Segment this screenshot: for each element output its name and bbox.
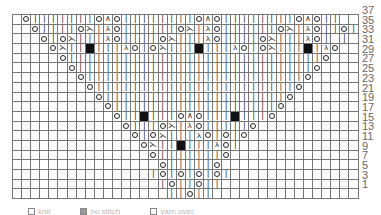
empty-cell xyxy=(13,170,22,180)
knit-cell: | xyxy=(176,131,185,141)
yarn-over-icon xyxy=(150,132,156,138)
chart-row: |||||||||||||||||||| xyxy=(13,92,359,102)
knit-cell: | xyxy=(122,24,131,34)
knit-cell: | xyxy=(167,44,176,54)
empty-cell xyxy=(58,111,67,121)
knit-cell: | xyxy=(231,53,240,63)
yarn-over-cell xyxy=(331,44,340,54)
chart-row: |||||||||||||||||||||||| xyxy=(13,73,359,83)
knit-cell: | xyxy=(231,121,240,131)
yarn-over-cell xyxy=(240,44,249,54)
empty-cell xyxy=(13,73,22,83)
knit-cell: | xyxy=(213,53,222,63)
empty-cell xyxy=(94,140,103,150)
knit-cell: | xyxy=(140,73,149,83)
empty-cell xyxy=(349,160,358,170)
knit-cell: | xyxy=(94,73,103,83)
empty-cell xyxy=(94,111,103,121)
knit-cell: | xyxy=(240,34,249,44)
empty-cell xyxy=(294,92,303,102)
knit-cell: | xyxy=(131,111,140,121)
cdd-cell: ∧ xyxy=(203,15,212,25)
knit-cell: | xyxy=(176,73,185,83)
knit-cell: | xyxy=(194,189,203,199)
chart-row: ⋋|||||λ| xyxy=(13,140,359,150)
knit-cell: | xyxy=(267,73,276,83)
empty-cell xyxy=(340,179,349,189)
knit-cell: | xyxy=(167,150,176,160)
empty-cell xyxy=(140,170,149,180)
knit-cell: | xyxy=(76,34,85,44)
knit-cell: | xyxy=(231,102,240,112)
empty-cell xyxy=(349,34,358,44)
yarn-over-icon xyxy=(314,65,320,71)
empty-cell xyxy=(285,131,294,141)
ssk-cell: λ xyxy=(322,44,331,54)
yarn-over-icon xyxy=(214,16,220,22)
empty-cell xyxy=(58,131,67,141)
knit-cell: | xyxy=(140,121,149,131)
empty-cell xyxy=(276,189,285,199)
empty-cell xyxy=(49,82,58,92)
yarn-over-icon xyxy=(287,94,293,100)
knit-cell: | xyxy=(113,53,122,63)
knit-cell: | xyxy=(131,24,140,34)
empty-cell xyxy=(304,160,313,170)
yarn-over-icon xyxy=(296,84,302,90)
empty-cell xyxy=(76,111,85,121)
knit-cell: | xyxy=(231,131,240,141)
row-number: 1 xyxy=(362,179,374,189)
knit-cell: | xyxy=(194,73,203,83)
knit-cell: | xyxy=(276,82,285,92)
knit-cell: | xyxy=(240,73,249,83)
empty-cell xyxy=(322,189,331,199)
knit-cell: | xyxy=(322,34,331,44)
yarn-over-cell xyxy=(167,179,176,189)
empty-cell xyxy=(340,92,349,102)
empty-cell xyxy=(340,15,349,25)
empty-cell xyxy=(13,15,22,25)
empty-cell xyxy=(240,160,249,170)
knit-cell: | xyxy=(185,53,194,63)
knit-cell: | xyxy=(231,24,240,34)
empty-cell xyxy=(31,102,40,112)
yarn-over-cell xyxy=(294,15,303,25)
empty-cell xyxy=(331,34,340,44)
knit-cell: | xyxy=(176,53,185,63)
knit-cell: | xyxy=(222,102,231,112)
knit-cell: | xyxy=(122,63,131,73)
empty-cell xyxy=(22,82,31,92)
yarn-over-icon xyxy=(214,162,220,168)
knit-cell: | xyxy=(140,24,149,34)
knit-cell: | xyxy=(85,53,94,63)
ssk-cell: λ xyxy=(203,24,212,34)
empty-cell xyxy=(67,170,76,180)
empty-cell xyxy=(294,179,303,189)
k2tog-cell: ⋋ xyxy=(285,24,294,34)
knit-cell: | xyxy=(213,63,222,73)
knit-cell: | xyxy=(294,73,303,83)
empty-cell xyxy=(85,189,94,199)
ssk-cell: λ xyxy=(304,34,313,44)
empty-cell xyxy=(331,111,340,121)
knit-cell: | xyxy=(231,140,240,150)
knit-cell: | xyxy=(76,53,85,63)
empty-cell xyxy=(340,73,349,83)
yarn-over-cell xyxy=(58,34,67,44)
cdd-cell: ∧ xyxy=(103,15,112,25)
yarn-over-icon xyxy=(223,132,229,138)
empty-cell xyxy=(13,82,22,92)
empty-cell xyxy=(76,160,85,170)
knit-cell: | xyxy=(103,44,112,54)
knit-cell: | xyxy=(103,73,112,83)
knit-cell: | xyxy=(213,73,222,83)
empty-cell xyxy=(331,63,340,73)
empty-cell xyxy=(58,73,67,83)
knit-cell: | xyxy=(167,24,176,34)
chart-row: |||⋋|λ||||| xyxy=(13,121,359,131)
knit-cell: | xyxy=(185,73,194,83)
yarn-over-cell xyxy=(31,24,40,34)
yarn-over-cell xyxy=(158,170,167,180)
empty-cell xyxy=(258,150,267,160)
yarn-over-cell xyxy=(213,34,222,44)
